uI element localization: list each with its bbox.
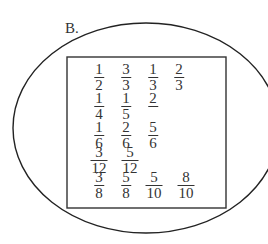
numerator: 3 [94,146,104,159]
denominator: 10 [146,187,163,200]
numerator: 1 [94,63,104,76]
numerator: 3 [94,171,104,184]
denominator: 6 [148,137,158,150]
numerator: 3 [121,63,131,76]
fraction: 58 [121,171,131,200]
fraction-bar [148,106,158,107]
numerator: 2 [121,121,131,134]
numerator: 5 [148,121,158,134]
fraction: 33 [121,63,131,92]
fraction: 38 [94,171,104,200]
numerator: 1 [94,121,104,134]
fraction: 2 [148,92,158,121]
fraction: 13 [148,63,158,92]
numerator: 5 [149,171,159,184]
denominator: 3 [174,79,184,92]
fraction: 810 [178,171,195,200]
numerator: 1 [121,92,131,105]
fraction: 23 [174,63,184,92]
numerator: 2 [148,92,158,105]
numerator: 5 [121,171,131,184]
fraction: 12 [94,63,104,92]
fraction: 14 [94,92,104,121]
numerator: 1 [148,63,158,76]
fraction: 56 [148,121,158,150]
numerator: 8 [181,171,191,184]
fraction-grid: 12331323141521626563125123858510810 [67,57,226,208]
numerator: 5 [125,146,135,159]
denominator: 8 [94,187,104,200]
fraction: 510 [146,171,163,200]
fraction: 15 [121,92,131,121]
numerator: 2 [174,63,184,76]
denominator: 8 [121,187,131,200]
numerator: 1 [94,92,104,105]
denominator: 10 [178,187,195,200]
